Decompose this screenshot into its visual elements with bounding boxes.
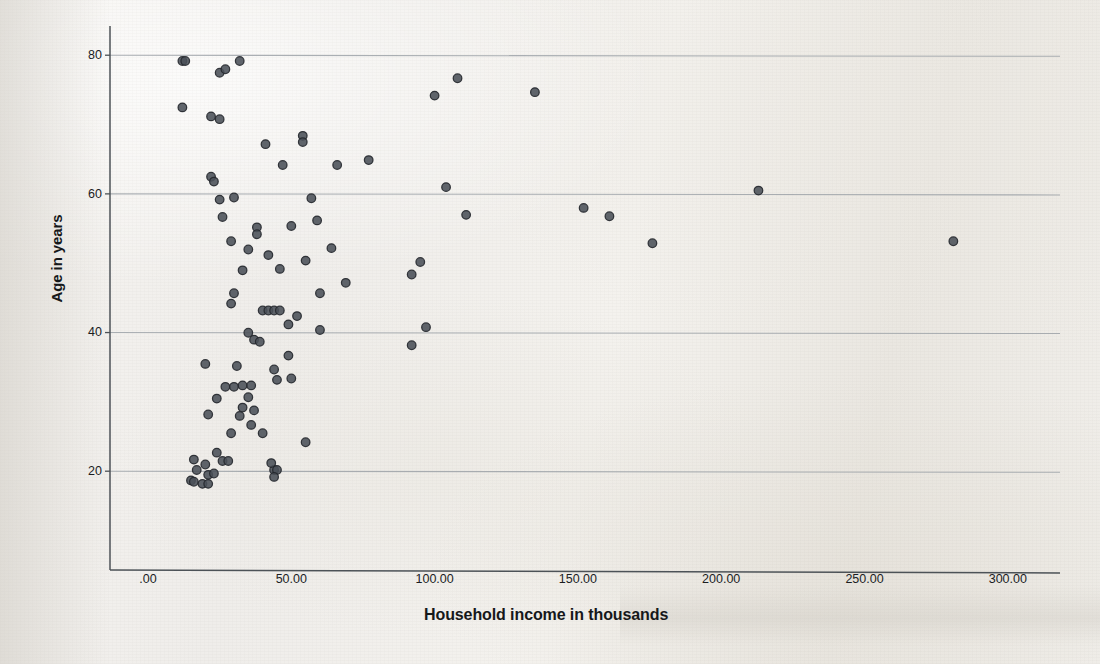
data-point xyxy=(181,57,190,66)
data-point xyxy=(221,65,230,74)
data-point xyxy=(949,237,958,246)
data-point xyxy=(235,57,244,66)
data-point xyxy=(253,230,262,239)
y-tick-label: 60 xyxy=(68,187,102,201)
data-point xyxy=(190,477,199,486)
data-point xyxy=(247,421,256,430)
data-point xyxy=(258,429,267,438)
data-point xyxy=(224,457,233,466)
data-point xyxy=(316,326,325,335)
data-point xyxy=(204,480,213,489)
data-point xyxy=(579,204,588,213)
data-point xyxy=(407,341,416,350)
data-point xyxy=(313,216,322,225)
data-point xyxy=(293,312,302,321)
data-point xyxy=(284,351,293,360)
data-point xyxy=(284,320,293,329)
data-point xyxy=(201,460,210,469)
data-points-group xyxy=(178,57,958,489)
x-tick-label: .00 xyxy=(139,572,156,586)
data-point xyxy=(276,306,285,315)
x-tick-label: 100.00 xyxy=(415,572,453,586)
data-point xyxy=(341,279,350,288)
x-tick-label: 300.00 xyxy=(989,572,1027,586)
data-point xyxy=(235,412,244,421)
x-tick-label: 200.00 xyxy=(702,572,740,586)
data-point xyxy=(212,394,221,403)
data-point xyxy=(276,265,285,274)
x-axis-title: Household income in thousands xyxy=(424,606,668,624)
data-point xyxy=(227,237,236,246)
data-point xyxy=(754,186,763,195)
data-point xyxy=(301,256,310,265)
data-point xyxy=(178,103,187,112)
data-point xyxy=(261,140,270,149)
data-point xyxy=(407,270,416,279)
data-point xyxy=(333,161,342,170)
data-point xyxy=(218,213,227,222)
data-point xyxy=(230,193,239,202)
data-point xyxy=(270,365,279,374)
data-point xyxy=(364,156,373,165)
data-point xyxy=(238,403,247,412)
y-tick-label: 80 xyxy=(68,48,102,62)
data-point xyxy=(204,410,213,419)
data-point xyxy=(250,406,259,415)
y-tick-label: 20 xyxy=(68,464,102,478)
data-point xyxy=(273,376,282,385)
data-point xyxy=(298,138,307,147)
x-tick-label: 50.00 xyxy=(276,572,307,586)
data-point xyxy=(287,374,296,383)
data-point xyxy=(416,258,425,267)
data-point xyxy=(270,473,279,482)
scatter-plot-figure: .0050.00100.00150.00200.00250.00300.0080… xyxy=(0,0,1100,664)
data-point xyxy=(287,222,296,231)
data-point xyxy=(605,212,614,221)
data-point xyxy=(230,383,239,392)
data-point xyxy=(648,239,657,248)
data-point xyxy=(238,381,247,390)
data-point xyxy=(233,362,242,371)
data-point xyxy=(462,211,471,220)
data-point xyxy=(212,448,221,457)
data-point xyxy=(301,438,310,447)
data-point xyxy=(190,455,199,464)
data-point xyxy=(244,245,253,254)
data-point xyxy=(215,115,224,124)
data-point xyxy=(442,183,451,192)
data-point xyxy=(227,429,236,438)
data-point xyxy=(422,323,431,332)
data-point xyxy=(227,299,236,308)
axis-lines-group xyxy=(110,26,1060,573)
data-point xyxy=(221,383,230,392)
data-point xyxy=(230,289,239,298)
data-point xyxy=(210,469,219,478)
data-point xyxy=(247,381,256,390)
data-point xyxy=(244,393,253,402)
data-point xyxy=(238,266,247,275)
plot-canvas xyxy=(0,0,1100,664)
data-point xyxy=(267,459,276,468)
data-point xyxy=(278,161,287,170)
data-point xyxy=(316,289,325,298)
data-point xyxy=(307,194,316,203)
data-point xyxy=(207,112,216,121)
data-point xyxy=(215,195,224,204)
data-point xyxy=(453,74,462,83)
data-point xyxy=(210,177,219,186)
y-axis-title: Age in years xyxy=(48,199,65,319)
x-tick-label: 150.00 xyxy=(559,572,597,586)
data-point xyxy=(327,244,336,253)
data-point xyxy=(192,466,201,475)
y-tick-label: 40 xyxy=(68,325,102,339)
data-point xyxy=(430,91,439,100)
data-point xyxy=(531,88,540,97)
data-point xyxy=(255,337,264,346)
data-point xyxy=(264,251,273,260)
data-point xyxy=(201,360,210,369)
x-tick-label: 250.00 xyxy=(845,572,883,586)
